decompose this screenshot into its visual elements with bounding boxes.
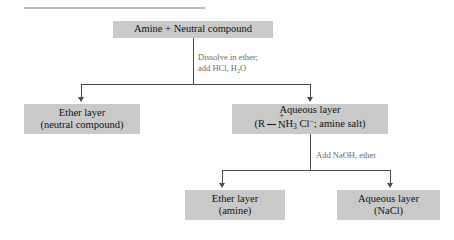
node-ether-layer-neutral: Ether layer (neutral compound) xyxy=(24,104,140,134)
annotation-step-2: Add NaOH, ether xyxy=(316,150,376,161)
node-start: Amine + Neutral compound xyxy=(113,21,273,38)
node-aqueous-layer-nacl: Aqueous layer (NaCl) xyxy=(337,190,440,220)
node-start-label: Amine + Neutral compound xyxy=(134,23,252,36)
annotation-step-1-line-1: Dissolve in ether; xyxy=(198,52,258,63)
connector-drop-right-2 xyxy=(390,170,391,184)
node-aqueous-layer-salt: Aqueous layer (R+NH3 Cl−; amine salt) xyxy=(232,104,388,134)
arrowhead-to-aqueous-layer-salt xyxy=(307,97,313,102)
connector-branch-bar-1 xyxy=(81,84,310,85)
flowchart-figure: Amine + Neutral compound Dissolve in eth… xyxy=(0,0,454,240)
node-ether-layer-neutral-line-2: (neutral compound) xyxy=(40,119,123,132)
annotation-step-2-line-1: Add NaOH, ether xyxy=(316,150,376,161)
top-divider-rule xyxy=(24,7,205,9)
connector-branch-bar-2 xyxy=(222,170,390,171)
annotation-step-1: Dissolve in ether; add HCl, H2O xyxy=(198,52,258,76)
node-ether-layer-amine-line-2: (amine) xyxy=(219,205,252,218)
annotation-step-1-line-2: add HCl, H2O xyxy=(198,63,258,76)
arrowhead-to-ether-layer-neutral xyxy=(78,97,84,102)
node-aqueous-layer-nacl-line-2: (NaCl) xyxy=(374,205,403,218)
node-aqueous-layer-salt-formula: (R+NH3 Cl−; amine salt) xyxy=(254,116,365,134)
connector-drop-left-1 xyxy=(81,84,82,98)
node-ether-layer-neutral-line-1: Ether layer xyxy=(59,107,105,120)
connector-stem-2 xyxy=(310,134,311,170)
bond-dash-icon xyxy=(267,124,276,125)
ammonium-charge-group: +N xyxy=(278,119,286,132)
node-aqueous-layer-salt-line-1: Aqueous layer xyxy=(280,104,341,117)
connector-stem-1 xyxy=(193,38,194,84)
arrowhead-to-aqueous-layer-nacl xyxy=(387,183,393,188)
node-ether-layer-amine-line-1: Ether layer xyxy=(212,193,258,206)
node-aqueous-layer-nacl-line-1: Aqueous layer xyxy=(358,193,419,206)
connector-drop-right-1 xyxy=(310,84,311,98)
connector-drop-left-2 xyxy=(222,170,223,184)
node-ether-layer-amine: Ether layer (amine) xyxy=(185,190,285,220)
arrowhead-to-ether-layer-amine xyxy=(219,183,225,188)
